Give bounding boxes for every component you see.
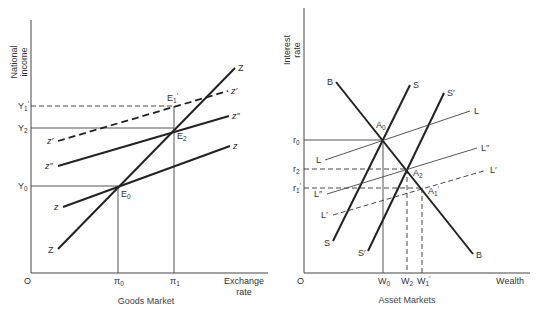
L-prime-right-label: L′	[490, 165, 497, 175]
A0-label: A0	[376, 120, 386, 131]
Z-bottom-label: Z	[48, 245, 54, 255]
z-prime-right-label: z′	[230, 86, 238, 96]
W0-tick: W0	[378, 276, 391, 287]
asset-y-axis-label-2: rate	[292, 42, 302, 58]
Y1-prime-tick: Y1′	[18, 100, 30, 112]
goods-y-axis-label-1: National	[9, 45, 19, 78]
L-double-prime-curve	[327, 148, 477, 194]
asset-y-axis-label-1: Interest	[282, 34, 292, 65]
S-prime-top-label: S′	[447, 88, 455, 98]
goods-x-axis-label-1: Exchange	[224, 276, 264, 286]
Y0-tick: Y0	[18, 181, 28, 192]
S-bottom-label: S	[324, 238, 330, 248]
z-dprime-left-label: z″	[44, 161, 54, 171]
S-top-label: S	[413, 80, 419, 90]
S-prime-bottom-label: S′	[358, 248, 366, 258]
z-right-label: z	[232, 141, 238, 151]
asset-markets-caption: Asset Markets	[378, 295, 436, 305]
z-prime-curve	[58, 91, 228, 141]
B-top-label: B	[327, 77, 333, 87]
E2-label: E2	[177, 131, 187, 142]
S-prime-curve	[368, 93, 444, 251]
goods-market-caption: Goods Market	[118, 296, 175, 306]
z-left-label: z	[53, 202, 59, 212]
W2-tick: W2	[401, 276, 414, 287]
L-dprime-right-label: L″	[481, 143, 490, 153]
L-prime-left-label: L′	[321, 210, 328, 220]
L-right-label: L	[474, 106, 479, 116]
z-curve	[63, 146, 230, 207]
A1-prime-label: A1′	[428, 185, 440, 197]
goods-origin: O	[24, 276, 31, 286]
L-dprime-left-label: L″	[314, 189, 323, 199]
asset-markets-panel: Interest rate B B S S S′ S′ L L L″ L″ L′…	[282, 8, 530, 305]
L-left-label: L	[316, 155, 321, 165]
r1-prime-tick: r1′	[293, 182, 302, 194]
diagram-canvas: National income Z Z z′ z′ z″ z″ z z E1′ …	[0, 0, 537, 316]
r2-tick: r2	[293, 164, 300, 175]
Z-top-label: Z	[238, 63, 244, 73]
z-prime-left-label: z′	[46, 136, 54, 146]
S-curve	[333, 85, 410, 241]
asset-origin: O	[297, 276, 304, 286]
pi0-tick: π0	[114, 276, 124, 287]
B-bottom-label: B	[476, 250, 482, 260]
goods-market-panel: National income Z Z z′ z′ z″ z″ z z E1′ …	[9, 20, 268, 306]
z-dprime-right-label: z″	[231, 111, 241, 121]
E0-label: E0	[121, 189, 131, 200]
asset-x-axis-label: Wealth	[496, 276, 524, 286]
L-curve	[325, 111, 470, 160]
B-curve	[336, 82, 473, 254]
W1-prime-tick: W1′	[417, 275, 431, 287]
pi1-tick: π1	[170, 276, 180, 287]
E1-prime-label: E1′	[167, 92, 179, 104]
goods-y-axis-label-2: income	[19, 47, 29, 76]
z-double-prime-curve	[58, 116, 229, 166]
goods-x-axis-label-2: rate	[236, 287, 252, 297]
r0-tick: r0	[293, 135, 300, 146]
A2-label: A2	[413, 168, 423, 179]
Y2-tick: Y2	[18, 123, 28, 134]
